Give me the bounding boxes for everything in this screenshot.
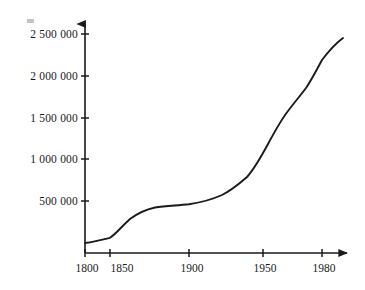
x-tick-label-1800: 1800 bbox=[76, 262, 99, 274]
x-tick-label-1850: 1850 bbox=[111, 262, 134, 274]
x-tick-label-1950: 1950 bbox=[254, 262, 277, 274]
y-tick-label-500000: 500 000 bbox=[39, 195, 78, 207]
data-series-population bbox=[85, 38, 343, 243]
y-tick-label-1500000: 1 500 000 bbox=[30, 112, 78, 124]
chart-figure: 2 500 000 2 000 000 1 500 000 1 000 000 … bbox=[0, 0, 365, 290]
x-tick-label-1980: 1980 bbox=[313, 262, 336, 274]
chart-canvas bbox=[0, 0, 365, 290]
y-tick-label-2500000: 2 500 000 bbox=[30, 28, 78, 40]
y-tick-label-1000000: 1 000 000 bbox=[30, 153, 78, 165]
y-tick-label-2000000: 2 000 000 bbox=[30, 70, 78, 82]
x-tick-label-1900: 1900 bbox=[181, 262, 204, 274]
